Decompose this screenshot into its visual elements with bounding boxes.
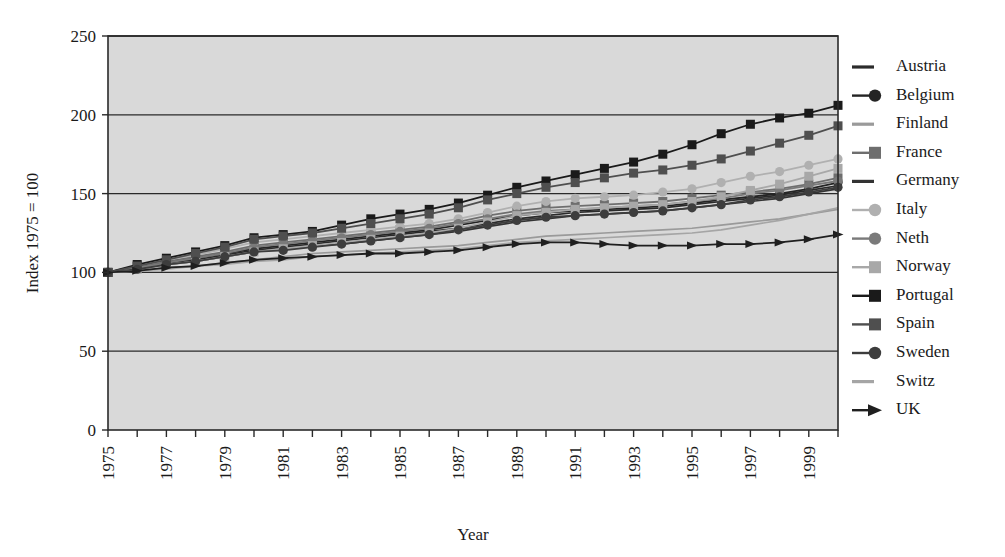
x-tick-label: 1977 — [157, 446, 176, 481]
x-tick-label: 1991 — [566, 446, 585, 480]
x-tick-label: 1975 — [99, 446, 118, 480]
y-tick-label: 250 — [71, 27, 97, 46]
legend-label: Norway — [896, 256, 951, 275]
legend-label: Austria — [896, 56, 947, 75]
y-tick-label: 50 — [79, 342, 96, 361]
legend-label: Belgium — [896, 85, 955, 104]
y-tick-label: 0 — [88, 421, 97, 440]
x-tick-label: 1987 — [449, 446, 468, 481]
x-tick-label: 1979 — [216, 446, 235, 480]
x-tick-label: 1995 — [683, 446, 702, 480]
y-tick-label: 150 — [71, 185, 97, 204]
y-axis-label: Index 1975 = 100 — [23, 173, 42, 294]
x-tick-label: 1999 — [800, 446, 819, 480]
line-chart: 050100150200250 197519771979198119831985… — [0, 0, 1005, 557]
chart-figure: 050100150200250 197519771979198119831985… — [0, 0, 1005, 557]
x-tick-label: 1993 — [625, 446, 644, 480]
y-tick-label: 100 — [71, 263, 97, 282]
x-tick-label: 1983 — [333, 446, 352, 480]
y-tick-label: 200 — [71, 106, 97, 125]
legend-label: UK — [896, 399, 921, 418]
legend-label: Spain — [896, 313, 935, 332]
x-axis-label: Year — [457, 525, 489, 544]
legend-label: France — [896, 142, 942, 161]
legend-label: Switz — [896, 371, 935, 390]
x-tick-label: 1997 — [741, 446, 760, 481]
legend-label: Neth — [896, 228, 930, 247]
x-tick-label: 1981 — [274, 446, 293, 480]
legend-label: Germany — [896, 170, 960, 189]
legend-label: Italy — [896, 199, 928, 218]
legend-label: Portugal — [896, 285, 954, 304]
legend-label: Sweden — [896, 342, 950, 361]
x-tick-label: 1985 — [391, 446, 410, 480]
x-tick-label: 1989 — [508, 446, 527, 480]
legend-label: Finland — [896, 113, 948, 132]
plot-area-background — [108, 36, 838, 430]
